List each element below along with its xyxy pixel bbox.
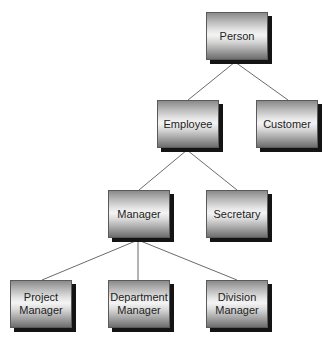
node-label: Customer: [263, 118, 311, 131]
node-project-manager[interactable]: Project Manager: [10, 280, 72, 328]
node-person[interactable]: Person: [206, 12, 268, 60]
node-label: Manager: [117, 208, 160, 221]
node-label: Person: [220, 30, 255, 43]
edge-manager-division-manager: [138, 240, 237, 280]
node-label: Project Manager: [19, 291, 62, 317]
edge-person-employee: [188, 62, 235, 100]
node-label: Employee: [164, 118, 213, 131]
node-label: Division Manager: [215, 291, 258, 317]
edge-employee-manager: [139, 150, 187, 190]
node-label: Secretary: [213, 208, 260, 221]
edge-person-customer: [235, 62, 288, 100]
node-manager[interactable]: Manager: [108, 190, 170, 238]
node-department-manager[interactable]: Department Manager: [108, 280, 170, 328]
edge-manager-project-manager: [42, 240, 138, 280]
node-secretary[interactable]: Secretary: [206, 190, 268, 238]
class-hierarchy-diagram: Person Employee Customer Manager Secreta…: [0, 0, 327, 338]
node-division-manager[interactable]: Division Manager: [206, 280, 268, 328]
node-label: Department Manager: [110, 291, 167, 317]
edge-employee-secretary: [187, 150, 237, 190]
node-customer[interactable]: Customer: [256, 100, 318, 148]
node-employee[interactable]: Employee: [157, 100, 219, 148]
